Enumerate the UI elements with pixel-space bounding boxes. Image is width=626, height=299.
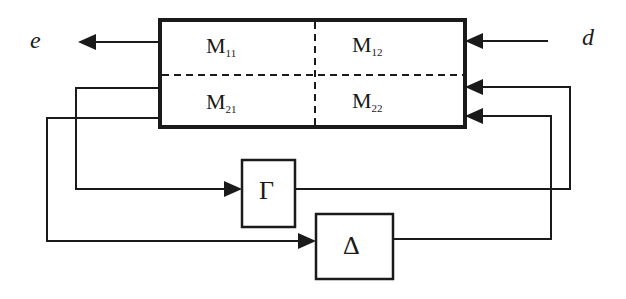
path-delta-to-m [393,116,551,239]
block-diagram-canvas [0,0,626,299]
partition-m11-sub: 11 [226,47,237,59]
partition-m21: M21 [206,89,237,115]
partition-m21-sub: 21 [226,103,237,115]
partition-m22: M22 [352,88,383,114]
partition-m12: M12 [352,32,383,58]
partition-m11-name: M [206,33,226,58]
gamma-symbol: Γ [259,176,274,206]
partition-m21-name: M [206,89,226,114]
partition-m22-name: M [352,88,372,113]
partition-m12-sub: 12 [372,46,383,58]
signal-label-e: e [30,27,41,54]
partition-m11: M11 [206,33,236,59]
partition-m12-name: M [352,32,372,57]
partition-m22-sub: 22 [372,102,383,114]
signal-label-d: d [582,24,594,51]
delta-symbol: Δ [343,231,360,261]
path-gamma-to-m [295,87,570,189]
